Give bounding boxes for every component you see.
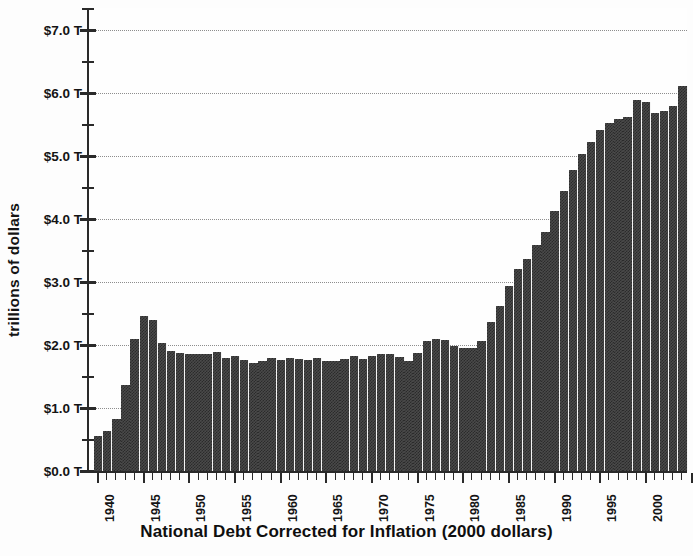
bar <box>678 86 687 471</box>
y-axis-tick-label: $3.0 T <box>20 275 82 290</box>
chart-title: National Debt Corrected for Inflation (2… <box>0 522 693 542</box>
bar <box>231 356 240 471</box>
bar <box>550 211 559 471</box>
bar <box>541 232 550 471</box>
bar <box>286 358 295 471</box>
bar <box>468 348 477 471</box>
bar <box>158 343 167 471</box>
bar <box>614 119 623 471</box>
bar <box>569 170 578 471</box>
bar <box>642 102 651 471</box>
bar <box>140 316 149 471</box>
bar <box>560 191 569 471</box>
x-axis-tick-label: 1990 <box>560 476 574 522</box>
x-axis-tick-label: 1980 <box>468 476 482 522</box>
x-axis-tick-label: 2000 <box>651 476 665 522</box>
x-axis-tick-label: 1940 <box>103 476 117 522</box>
y-axis-tick-label: $2.0 T <box>20 338 82 353</box>
bar <box>587 142 596 471</box>
bar <box>331 361 340 471</box>
bar <box>660 111 669 471</box>
bar <box>103 431 112 471</box>
y-axis-tick-label: $5.0 T <box>20 149 82 164</box>
bar <box>496 306 505 471</box>
bar <box>121 385 130 471</box>
chart-container: trillions of dollars $0.0 T$1.0 T$2.0 T$… <box>0 0 693 556</box>
bar <box>194 354 203 471</box>
x-axis-tick-label: 1950 <box>194 476 208 522</box>
bar <box>395 357 404 471</box>
bar <box>441 340 450 471</box>
x-axis-tick-label: 1995 <box>605 476 619 522</box>
bar <box>605 123 614 471</box>
bar-series <box>89 8 687 471</box>
x-axis-tick-label: 1985 <box>514 476 528 522</box>
bar <box>514 269 523 471</box>
plot-area <box>87 8 687 473</box>
bar <box>359 359 368 471</box>
bar <box>377 354 386 471</box>
bar <box>277 360 286 471</box>
bar <box>340 359 349 471</box>
y-axis-tick-labels: $0.0 T$1.0 T$2.0 T$3.0 T$4.0 T$5.0 T$6.0… <box>20 0 82 556</box>
y-axis-tick-label: $1.0 T <box>20 401 82 416</box>
y-axis-tick-label: $0.0 T <box>20 464 82 479</box>
x-axis-line <box>87 471 687 473</box>
bar <box>651 113 660 471</box>
bar <box>203 354 212 471</box>
bar <box>350 356 359 471</box>
bar <box>386 354 395 471</box>
x-axis-tick-labels: 1940194519501955196019651970197519801985… <box>87 476 687 522</box>
bar <box>176 353 185 471</box>
x-axis-tick-label: 1965 <box>331 476 345 522</box>
bar <box>130 339 139 471</box>
bar <box>368 356 377 471</box>
bar <box>477 341 486 471</box>
x-axis-tick-label: 1975 <box>423 476 437 522</box>
x-axis-tick-label: 1970 <box>377 476 391 522</box>
bar <box>112 419 121 471</box>
y-axis-tick-label: $7.0 T <box>20 23 82 38</box>
bar <box>532 245 541 471</box>
bar <box>669 106 678 471</box>
bar <box>240 360 249 471</box>
y-axis-tick-label: $4.0 T <box>20 212 82 227</box>
bar <box>167 351 176 471</box>
bar <box>413 353 422 471</box>
bar <box>149 320 158 471</box>
bar <box>185 354 194 471</box>
bar <box>322 361 331 471</box>
bar <box>213 352 222 471</box>
bar <box>304 360 313 471</box>
bar <box>505 286 514 471</box>
bar <box>596 130 605 471</box>
bar <box>295 359 304 471</box>
y-axis-tick-label: $6.0 T <box>20 86 82 101</box>
x-axis-tick-label: 1955 <box>240 476 254 522</box>
bar <box>450 346 459 471</box>
bar <box>94 436 103 471</box>
x-axis-tick-label: 1945 <box>149 476 163 522</box>
bar <box>633 100 642 471</box>
x-axis-tick-label: 1960 <box>286 476 300 522</box>
bar <box>222 358 231 471</box>
bar <box>249 363 258 471</box>
bar <box>267 358 276 471</box>
bar <box>258 361 267 471</box>
bar <box>523 259 532 471</box>
bar <box>404 361 413 471</box>
bar <box>487 322 496 471</box>
bar <box>423 341 432 471</box>
bar <box>578 154 587 471</box>
bar <box>432 339 441 471</box>
bar <box>313 358 322 471</box>
bar <box>623 117 632 471</box>
x-axis-major-tick <box>691 473 693 483</box>
bar <box>459 348 468 471</box>
